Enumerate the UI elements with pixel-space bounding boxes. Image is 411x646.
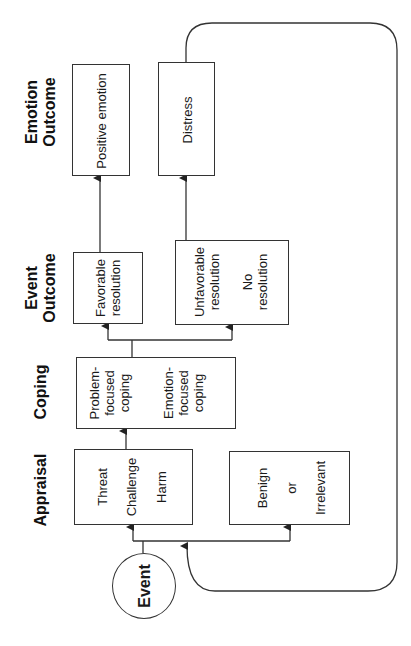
unfavorable-resolution-label: Unfavorable resolution — [192, 247, 222, 317]
no-resolution-line1: No — [240, 254, 255, 310]
no-resolution-label: No resolution — [240, 254, 270, 310]
problem-focused-coping-label: Problem- focused coping — [87, 367, 132, 420]
coping-box: Problem- focused coping Emotion- focused… — [76, 357, 236, 429]
benign-irrelevant-box: Benign or Irrelevant — [229, 451, 350, 525]
emotion-focused-line1: Emotion- — [161, 367, 176, 419]
event-circle: Event — [112, 553, 176, 619]
threat-label: Threat — [95, 468, 110, 506]
problem-focused-line2: focused — [102, 367, 117, 420]
unfavorable-line1: Unfavorable — [192, 247, 207, 317]
benign-label: Benign — [255, 468, 270, 508]
unfavorable-resolution-box: Unfavorable resolution No resolution — [175, 240, 289, 325]
event-label: Event — [137, 564, 152, 608]
problem-focused-line3: coping — [117, 367, 132, 420]
no-resolution-line2: resolution — [255, 254, 270, 310]
header-event-outcome-line1: Event — [23, 253, 41, 322]
header-appraisal: Appraisal — [32, 454, 50, 527]
header-emotion-outcome: Emotion Outcome — [23, 77, 59, 146]
irrelevant-label: Irrelevant — [313, 461, 328, 515]
header-emotion-outcome-line2: Outcome — [41, 77, 59, 146]
stress-coping-diagram: Emotion Outcome Event Outcome Coping App… — [0, 0, 411, 646]
header-event-outcome-line2: Outcome — [41, 253, 59, 322]
unfavorable-line2: resolution — [207, 247, 222, 317]
favorable-line2: resolution — [108, 259, 123, 317]
distress-label: Distress — [180, 97, 195, 144]
header-coping: Coping — [32, 364, 50, 419]
emotion-focused-line2: focused — [176, 367, 191, 419]
positive-emotion-label: Positive emotion — [94, 73, 109, 168]
challenge-label: Challenge — [124, 458, 139, 517]
or-label: or — [284, 482, 299, 494]
favorable-line1: Favorable — [93, 259, 108, 317]
positive-emotion-box: Positive emotion — [72, 64, 130, 176]
header-emotion-outcome-line1: Emotion — [23, 77, 41, 146]
emotion-focused-line3: coping — [191, 367, 206, 419]
favorable-resolution-box: Favorable resolution — [73, 252, 143, 324]
stressful-appraisal-box: Threat Challenge Harm — [74, 449, 193, 525]
distress-box: Distress — [158, 62, 215, 176]
favorable-resolution-label: Favorable resolution — [93, 259, 123, 317]
header-event-outcome: Event Outcome — [23, 253, 59, 322]
emotion-focused-coping-label: Emotion- focused coping — [161, 367, 206, 419]
harm-label: Harm — [154, 471, 169, 503]
problem-focused-line1: Problem- — [87, 367, 102, 420]
